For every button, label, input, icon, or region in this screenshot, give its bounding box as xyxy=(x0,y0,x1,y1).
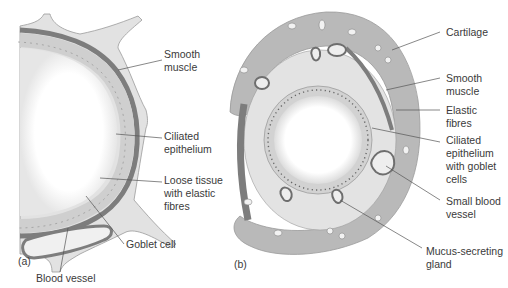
lumen-b xyxy=(274,96,362,184)
label-smooth-muscle-b: Smooth muscle xyxy=(446,72,485,97)
panel-b-bronchus: Cartilage Smooth muscle Elastic fibres C… xyxy=(230,12,506,270)
label-goblet-cell-a: Goblet cell xyxy=(126,238,176,250)
label-blood-vessel-a: Blood vessel xyxy=(36,272,96,284)
label-cartilage-b: Cartilage xyxy=(446,26,488,38)
label-mucus-gland-b: Mucus-secreting gland xyxy=(426,245,506,270)
leader-cartilage-b xyxy=(392,32,440,50)
label-loose-tissue-a: Loose tissue with elastic fibres xyxy=(163,174,226,212)
gland-bottom-b xyxy=(332,190,342,203)
gland-top-b xyxy=(311,48,320,61)
label-ciliated-epithelium-b: Ciliated epithelium with goblet cells xyxy=(445,134,499,185)
gland-left-b xyxy=(255,77,269,89)
airway-cross-section-diagram: Smooth muscle Ciliated epithelium Loose … xyxy=(0,0,508,288)
panel-label-b: (b) xyxy=(234,258,247,270)
label-ciliated-epithelium-a: Ciliated epithelium xyxy=(164,130,212,155)
gland-top-right-b xyxy=(328,44,346,56)
small-blood-vessel-b xyxy=(371,151,394,174)
gland-bottom-left-b xyxy=(281,188,292,201)
label-smooth-muscle-a: Smooth muscle xyxy=(164,48,203,73)
panel-a-bronchiole: Smooth muscle Ciliated epithelium Loose … xyxy=(18,14,226,284)
panel-label-a: (a) xyxy=(18,255,31,267)
label-small-blood-vessel-b: Small blood vessel xyxy=(446,195,504,220)
label-elastic-fibres-b: Elastic fibres xyxy=(446,104,480,129)
